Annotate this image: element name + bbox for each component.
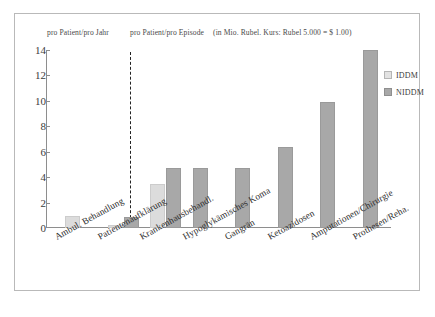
chart-figure-frame: pro Patient/pro Jahr pro Patient/pro Epi… — [14, 13, 420, 291]
caption-per-patient-per-year: pro Patient/pro Jahr — [47, 28, 109, 38]
bar-group — [108, 50, 151, 228]
bar-iddm — [108, 225, 123, 228]
y-tick-label: 10 — [24, 95, 46, 106]
caption-per-patient-per-episode: pro Patient/pro Episode — [130, 28, 204, 38]
bar-niddm — [320, 102, 335, 228]
legend-item: IDDM — [384, 68, 435, 82]
y-tick-label: 8 — [24, 121, 46, 132]
y-tick-label: 2 — [24, 197, 46, 208]
bar-group — [150, 50, 193, 228]
y-tick-label: 6 — [24, 146, 46, 157]
y-tick-label: 4 — [24, 172, 46, 183]
legend-item: NIDDM — [384, 85, 435, 99]
legend-label: IDDM — [396, 71, 418, 80]
y-tick-label: 0 — [24, 223, 46, 234]
y-tick-label: 14 — [24, 45, 46, 56]
legend-swatch-icon — [384, 71, 392, 79]
bars-layer — [47, 50, 391, 228]
bar-group — [65, 50, 108, 228]
bar-group — [320, 50, 363, 228]
bar-niddm — [193, 168, 208, 228]
chart-legend: IDDMNIDDM — [384, 68, 435, 102]
bar-niddm — [363, 50, 378, 228]
bar-niddm — [278, 147, 293, 228]
bar-group — [278, 50, 321, 228]
bar-niddm — [166, 168, 181, 228]
caption-row: pro Patient/pro Jahr pro Patient/pro Epi… — [15, 28, 421, 42]
bar-iddm — [150, 184, 165, 229]
y-axis-ticks: 02468101214 — [15, 14, 46, 264]
y-tick-label: 12 — [24, 70, 46, 81]
legend-label: NIDDM — [396, 88, 424, 97]
bar-niddm — [235, 168, 250, 228]
bar-group — [235, 50, 278, 228]
bar-iddm — [65, 216, 80, 228]
bar-group — [193, 50, 236, 228]
legend-swatch-icon — [384, 88, 392, 96]
caption-currency-note: (in Mio. Rubel. Kurs: Rubel 5.000 = $ 1.… — [213, 28, 352, 38]
bar-niddm — [124, 217, 139, 228]
